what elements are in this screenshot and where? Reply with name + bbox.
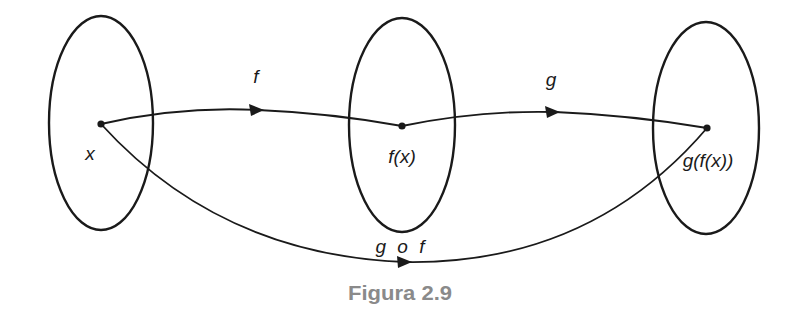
label-fx: f(x) xyxy=(388,146,415,167)
point-fx xyxy=(398,122,405,129)
composition-diagram: x f(x) g(f(x)) f g g o f Figura 2.9 xyxy=(0,0,793,309)
arrow-gof-head-icon xyxy=(397,256,412,268)
label-arrow-gof: g o f xyxy=(376,236,427,257)
point-x xyxy=(97,120,104,127)
arrow-f-head-icon xyxy=(249,104,264,116)
label-gfx: g(f(x)) xyxy=(683,150,734,171)
point-gfx xyxy=(703,124,710,131)
label-arrow-g: g xyxy=(546,69,557,90)
label-arrow-f: f xyxy=(253,66,260,87)
arrow-g-head-icon xyxy=(545,106,560,118)
label-x: x xyxy=(84,143,96,164)
figure-caption: Figura 2.9 xyxy=(348,282,452,304)
